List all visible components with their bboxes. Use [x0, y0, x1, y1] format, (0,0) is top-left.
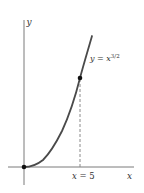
curve-diagram: y x y = x3/2 x = 5	[0, 0, 144, 193]
x-equals-5-label: x = 5	[72, 171, 95, 181]
origin-point	[22, 165, 27, 170]
curve-label: y = x3/2	[89, 53, 120, 64]
curve-label-exponent: 3/2	[111, 53, 120, 59]
x-axis-label: x	[127, 171, 132, 181]
x-equals-5-value: 5	[89, 171, 94, 181]
y-axis-label: y	[26, 17, 33, 27]
curve-y-equals-x-three-halves	[24, 36, 92, 167]
point-at-x-5	[78, 76, 83, 81]
curve-label-base: y = x	[89, 54, 111, 63]
x-equals-5-eq: =	[77, 171, 90, 181]
